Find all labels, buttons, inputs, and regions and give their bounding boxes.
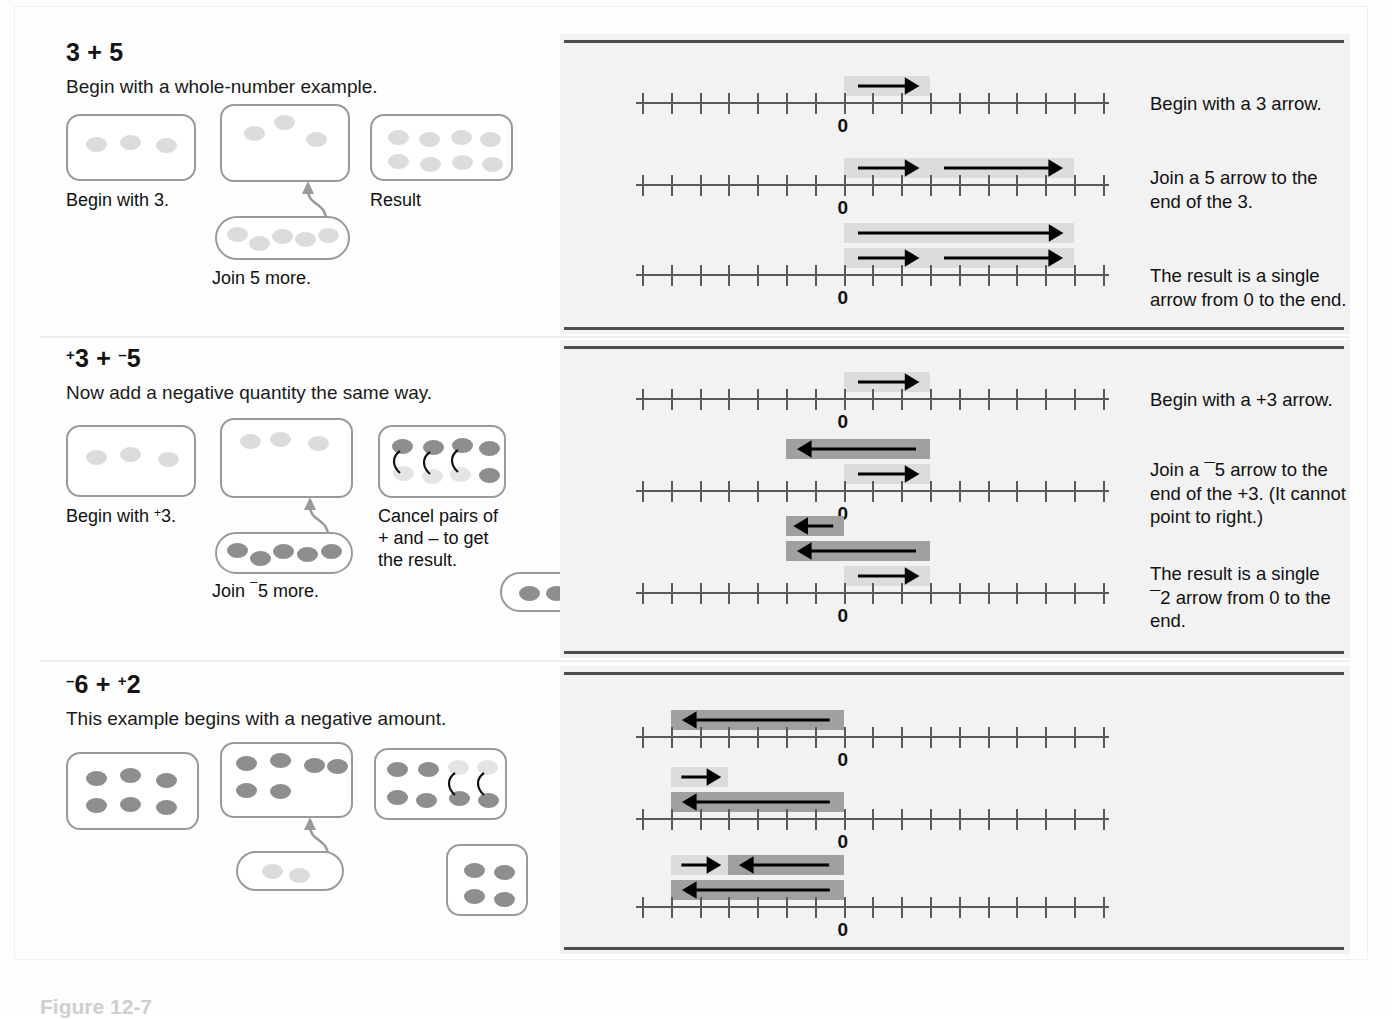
numberline-note: Begin with a +3 arrow. <box>1150 388 1360 412</box>
numberline-tick <box>930 481 932 502</box>
dot-negative <box>321 544 342 559</box>
dot-positive <box>318 228 339 243</box>
numberline-tick <box>815 175 817 196</box>
numberline-tick <box>786 265 788 286</box>
numberline-tick <box>786 809 788 830</box>
numberline-tick <box>757 583 759 604</box>
numberline-tick <box>728 265 730 286</box>
arrow-right-icon <box>930 158 1074 178</box>
numberline-tick <box>901 897 903 918</box>
dot-positive <box>306 132 327 147</box>
numberline-tick <box>815 897 817 918</box>
dot-positive <box>270 432 291 447</box>
dot-positive <box>388 130 409 145</box>
numberline-tick <box>930 897 932 918</box>
numberline-tick <box>959 809 961 830</box>
numberline-tick <box>901 809 903 830</box>
numberline-tick <box>1103 389 1105 410</box>
numberline-tick <box>642 175 644 196</box>
numberline-tick <box>700 897 702 918</box>
numberline-tick <box>959 175 961 196</box>
arrow-right-icon <box>930 248 1074 268</box>
dot-positive <box>262 864 283 879</box>
numberline-tick <box>757 809 759 830</box>
numberline-tick <box>642 897 644 918</box>
panel-3-join-target-box <box>220 742 353 818</box>
numberline-tick <box>844 175 846 196</box>
numberline-tick <box>844 809 846 830</box>
numberline-tick <box>872 175 874 196</box>
numberline-tick <box>642 727 644 748</box>
numberline-tick <box>930 809 932 830</box>
numberline-zero-label: 0 <box>838 749 849 771</box>
panel-2-numberlines: 0Begin with a +3 arrow.0Join a ¯5 arrow … <box>560 340 1350 658</box>
numberline-tick <box>700 175 702 196</box>
arrow-right-icon <box>844 566 930 586</box>
numberline-tick <box>1045 727 1047 748</box>
panel-1-subtitle: Begin with a whole-number example. <box>66 76 378 98</box>
numberline-tick <box>671 583 673 604</box>
numberline-tick <box>1045 897 1047 918</box>
dot-negative <box>236 756 257 771</box>
dot-negative <box>86 798 107 813</box>
numberline-tick <box>1103 727 1105 748</box>
numberline-tick <box>815 481 817 502</box>
numberline-tick <box>872 481 874 502</box>
dot-negative <box>156 800 177 815</box>
numberline-tick <box>700 481 702 502</box>
numberline-tick <box>757 389 759 410</box>
dot-positive <box>480 132 501 147</box>
numberline-tick <box>1103 175 1105 196</box>
arrow-right-icon <box>671 767 729 787</box>
numberline-tick <box>930 389 932 410</box>
numberline-tick <box>1045 809 1047 830</box>
numberline-tick <box>1016 175 1018 196</box>
numberline-tick <box>872 93 874 114</box>
panel-1-numberline-area: 0Begin with a 3 arrow.0Join a 5 arrow to… <box>560 34 1350 334</box>
numberline-tick <box>901 389 903 410</box>
numberline-tick <box>728 583 730 604</box>
figure-caption: Figure 12-7 <box>40 995 152 1019</box>
dot-positive <box>240 434 261 449</box>
numberline-tick <box>844 389 846 410</box>
numberline-tick <box>757 265 759 286</box>
numberline-zero-label: 0 <box>838 115 849 137</box>
cancel-stroke-icon <box>380 427 508 500</box>
panel-whole-number: 3 + 5 Begin with a whole-number example.… <box>40 34 1350 334</box>
numberline-tick <box>1074 93 1076 114</box>
dot-positive <box>120 135 141 150</box>
panel-1-join-caption: Join 5 more. <box>212 268 311 289</box>
numberline-tick <box>901 175 903 196</box>
numberline-tick <box>844 897 846 918</box>
numberline-tick <box>815 265 817 286</box>
numberline-tick <box>1045 481 1047 502</box>
numberline-tick <box>959 727 961 748</box>
numberline-tick <box>1016 809 1018 830</box>
numberline-tick <box>1045 93 1047 114</box>
numberline-tick <box>757 175 759 196</box>
numberline-tick <box>844 583 846 604</box>
numberline-tick <box>930 727 932 748</box>
panel-3-equation: –6 + +2 <box>66 670 141 699</box>
dot-positive <box>419 132 440 147</box>
numberline-tick <box>757 897 759 918</box>
numberline-tick <box>901 481 903 502</box>
panel-1-begin-caption: Begin with 3. <box>66 190 169 211</box>
panel-2-join-target-box <box>220 418 353 498</box>
numberline-tick <box>872 265 874 286</box>
numberline-tick <box>1074 727 1076 748</box>
numberline-zero-label: 0 <box>838 831 849 853</box>
numberline-tick <box>959 389 961 410</box>
cancel-stroke-icon <box>376 750 509 822</box>
numberline-tick <box>642 389 644 410</box>
panel-separator <box>40 336 1350 338</box>
arrow-right-icon <box>844 158 930 178</box>
panel-2-subtitle: Now add a negative quantity the same way… <box>66 382 432 404</box>
numberline-tick <box>901 727 903 748</box>
numberline-tick <box>815 389 817 410</box>
numberline-tick <box>844 481 846 502</box>
numberline-tick <box>1016 389 1018 410</box>
panel-2-left-column: +3 + –5 Now add a negative quantity the … <box>40 340 560 658</box>
numberline-tick <box>959 481 961 502</box>
numberline-tick <box>872 583 874 604</box>
